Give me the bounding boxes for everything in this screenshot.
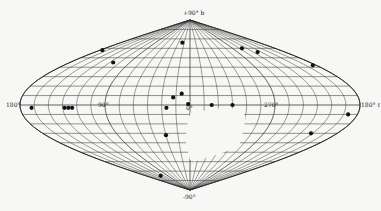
source-point — [164, 133, 168, 137]
source-point — [180, 92, 184, 96]
lon-0-label: 0° — [186, 104, 193, 111]
left-edge-label: 180° — [6, 101, 20, 108]
south-pole-label: -90° — [183, 193, 196, 200]
north-pole-label: +90° b — [183, 9, 204, 16]
source-point — [111, 60, 115, 64]
source-point — [346, 112, 350, 116]
source-point — [180, 41, 184, 45]
source-point — [100, 48, 104, 52]
source-point — [29, 106, 33, 110]
lon-270-label: 270° — [264, 101, 278, 108]
source-point — [70, 106, 74, 110]
source-point — [171, 95, 175, 99]
source-point — [230, 103, 234, 107]
source-point — [309, 131, 313, 135]
right-edge-label: 180° ℓ — [361, 101, 380, 108]
source-point — [159, 174, 163, 178]
source-point — [66, 106, 70, 110]
source-point — [62, 106, 66, 110]
source-point — [210, 103, 214, 107]
source-point — [311, 63, 315, 67]
lon-90-label: 90° — [98, 101, 109, 108]
source-point — [240, 46, 244, 50]
source-point — [164, 106, 168, 110]
unobserved-region — [186, 108, 246, 162]
source-point — [256, 50, 260, 54]
